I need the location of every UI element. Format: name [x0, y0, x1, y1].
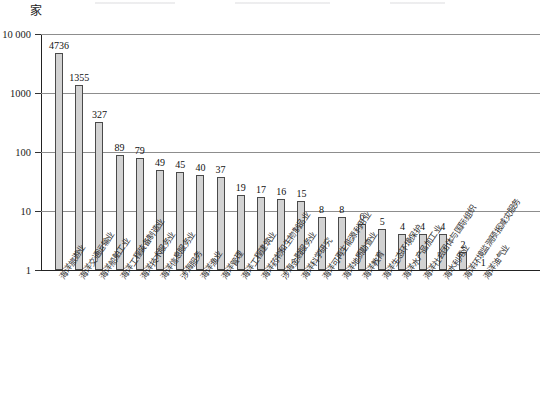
y-axis-tick-label: 1 [0, 265, 31, 276]
y-axis-tick-label: 10 [0, 206, 31, 217]
category-labels-group: 海洋旅游业海洋交通运输业海洋船舶工业海洋工程装备制造业海洋技术服务业海洋信息服务… [0, 0, 559, 410]
y-axis-tick-label: 100 [0, 147, 31, 158]
y-axis-tick-label: 1000 [0, 88, 31, 99]
chart-figure: 家 47361355327897949454037191716158865444… [0, 0, 559, 410]
y-axis-tick-label: 10 000 [0, 29, 31, 40]
